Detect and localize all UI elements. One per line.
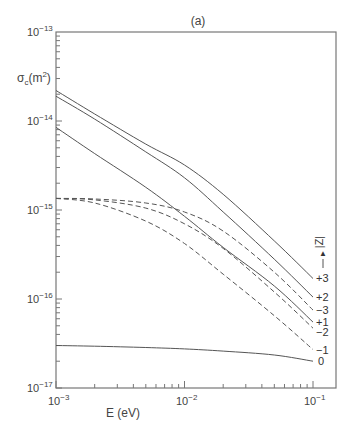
legend-title: |Z| ▲ — [313, 236, 327, 268]
plot-frame — [56, 32, 336, 388]
y-axis-title: σc(m2) — [17, 70, 51, 87]
svg-text:|Z|: |Z| — [313, 236, 325, 248]
arrow-up-icon: ▲ — [319, 249, 327, 258]
curve-label-minus3: −3 — [316, 304, 329, 316]
x-tick-label: 10−3 — [48, 393, 70, 407]
curve-minus2 — [56, 198, 313, 328]
curve-label-zero: 0 — [318, 355, 324, 367]
curves — [56, 91, 313, 362]
x-tick-label: 10−1 — [304, 393, 326, 407]
x-axis-title: E (eV) — [106, 406, 140, 420]
curve-label-minus2: −2 — [316, 326, 329, 338]
x-tick-labels: 10−3 10−2 10−1 — [48, 393, 326, 407]
curve-label-plus2: +2 — [316, 291, 329, 303]
curve-plus2 — [56, 96, 313, 297]
panel-title: (a) — [191, 14, 206, 28]
y-tick-label: 10−14 — [27, 113, 53, 127]
curve-plus1 — [56, 127, 313, 322]
curve-minus3 — [56, 198, 313, 310]
chart-svg: (a) σc(m2) E (eV) 10−13 10−14 10−15 10−1… — [0, 0, 349, 436]
curve-label-plus3: +3 — [316, 272, 329, 284]
y-tick-label: 10−13 — [27, 24, 53, 38]
curve-minus1 — [56, 198, 313, 349]
y-tick-label: 10−16 — [27, 291, 53, 305]
curve-0 — [56, 346, 313, 362]
curve-labels: +3 +2 −3 +1 −2 −1 0 — [316, 272, 329, 367]
x-tick-label: 10−2 — [176, 393, 198, 407]
y-tick-label: 10−15 — [27, 202, 53, 216]
y-tick-label: 10−17 — [27, 380, 53, 394]
